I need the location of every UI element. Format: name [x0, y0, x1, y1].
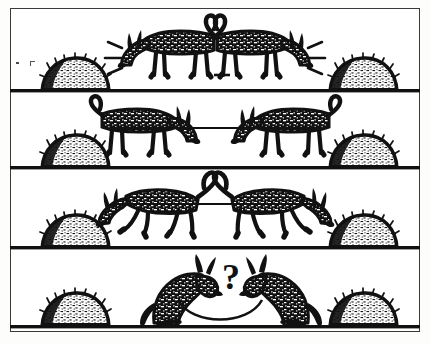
- panel-4-question: [10, 254, 420, 328]
- panel-1-strain-apart: [10, 16, 420, 93]
- illustration-stage: ?: [0, 0, 431, 344]
- ground-line: [10, 166, 420, 169]
- panel-2-stalemate: [10, 96, 420, 169]
- cartoon-artwork: [0, 0, 431, 344]
- effect-lines-left: [105, 42, 122, 74]
- haystack-left: [40, 53, 111, 92]
- donkey-right: [231, 96, 340, 155]
- haystack-right: [328, 288, 399, 327]
- effect-lines-right: [308, 42, 325, 74]
- haystack-right: [328, 53, 399, 92]
- donkey-right: [206, 16, 313, 77]
- panel-3-pulling-hard: [10, 173, 420, 250]
- ground-line: [10, 89, 420, 92]
- donkey-left: [140, 254, 223, 326]
- haystack-left: [40, 130, 111, 169]
- question-mark-icon: ?: [218, 258, 244, 296]
- donkey-left: [118, 16, 225, 77]
- haystack-right: [328, 210, 399, 249]
- haystack-left: [40, 288, 111, 327]
- donkey-right: [239, 254, 322, 326]
- donkey-left: [91, 96, 200, 155]
- ground-line: [10, 246, 420, 249]
- ground-line: [10, 325, 420, 328]
- haystack-right: [328, 130, 399, 169]
